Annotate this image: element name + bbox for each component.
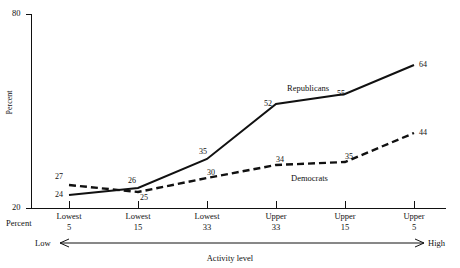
- chart-canvas: 80 20 Percent Lowest 5 Lowest 15 Lowest …: [0, 0, 460, 268]
- axis-arrow-low-label: Low: [35, 238, 51, 248]
- activity-level-arrow: [0, 0, 460, 268]
- x-axis-title: Activity level: [0, 253, 460, 263]
- axis-arrow-high-label: High: [428, 238, 445, 248]
